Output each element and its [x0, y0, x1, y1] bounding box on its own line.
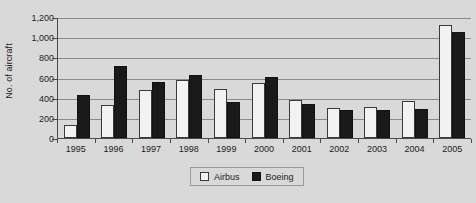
bar-group-2001 [283, 18, 321, 138]
x-axis-tick-label: 2005 [433, 144, 471, 157]
y-axis-tick-label: 600 [16, 74, 54, 84]
bar-airbus-1995 [64, 125, 77, 138]
x-axis-tick-label: 2000 [245, 144, 283, 157]
y-axis-tick-label: 1,000 [16, 33, 54, 43]
bar-airbus-2001 [289, 100, 302, 138]
bar-boeing-2003 [377, 110, 390, 138]
x-axis-tick-mark [471, 139, 472, 143]
x-axis-tick-label: 2002 [320, 144, 358, 157]
bar-group-2005 [433, 18, 471, 138]
bar-group-1998 [171, 18, 209, 138]
bar-boeing-1997 [152, 82, 165, 138]
bar-boeing-2000 [265, 77, 278, 139]
x-axis-tick-mark [208, 139, 209, 143]
bar-group-1995 [58, 18, 96, 138]
bar-group-1997 [133, 18, 171, 138]
legend-entry-airbus: Airbus [200, 172, 240, 182]
bar-airbus-1997 [139, 90, 152, 138]
legend-label-airbus: Airbus [214, 172, 240, 182]
y-axis-tick-labels: 02004006008001,0001,200 [16, 12, 54, 140]
bar-airbus-1996 [101, 105, 114, 138]
legend-swatch-airbus-icon [200, 172, 209, 181]
bar-group-2000 [246, 18, 284, 138]
y-axis-tick-label: 800 [16, 53, 54, 63]
x-axis-tick-mark [396, 139, 397, 143]
bar-airbus-2002 [327, 108, 340, 138]
y-axis-title-label: No. of aircraft [4, 43, 14, 99]
x-axis-tick-mark [245, 139, 246, 143]
bar-airbus-1998 [176, 80, 189, 138]
x-axis-tick-mark [95, 139, 96, 143]
bar-airbus-2003 [364, 107, 377, 138]
legend-swatch-boeing-icon [252, 172, 261, 181]
x-axis-tick-mark [170, 139, 171, 143]
x-axis-tick-label: 1998 [170, 144, 208, 157]
x-axis-tick-mark [132, 139, 133, 143]
y-axis-tick-label: 400 [16, 94, 54, 104]
x-axis-tick-mark [433, 139, 434, 143]
x-axis-tick-label: 2003 [358, 144, 396, 157]
bar-boeing-2004 [415, 109, 428, 138]
x-axis-tick-label: 1995 [57, 144, 95, 157]
bar-group-2003 [358, 18, 396, 138]
bar-boeing-1995 [77, 95, 90, 138]
x-axis-tick-label: 1997 [132, 144, 170, 157]
x-axis-tick-label: 1999 [208, 144, 246, 157]
x-axis-tick-mark [358, 139, 359, 143]
chart-legend: Airbus Boeing [190, 167, 304, 186]
y-axis-tick-label: 200 [16, 114, 54, 124]
x-axis-tick-mark [283, 139, 284, 143]
bar-airbus-1999 [214, 89, 227, 138]
bar-boeing-1996 [114, 66, 127, 138]
bar-airbus-2005 [439, 25, 452, 138]
bar-group-1999 [208, 18, 246, 138]
x-axis-tick-label: 2004 [396, 144, 434, 157]
legend-label-boeing: Boeing [266, 172, 294, 182]
x-axis-tick-labels: 1995199619971998199920002001200220032004… [57, 144, 471, 157]
bar-boeing-2002 [340, 110, 353, 138]
bar-airbus-2004 [402, 101, 415, 138]
bar-airbus-2000 [252, 83, 265, 138]
bar-boeing-1999 [227, 102, 240, 138]
y-axis-tick-label: 0 [16, 134, 54, 144]
plot-area [57, 18, 471, 139]
bars-layer [58, 18, 471, 138]
y-axis-tick-label: 1,200 [16, 13, 54, 23]
bar-boeing-2005 [452, 32, 465, 138]
x-axis-tick-mark [57, 139, 58, 143]
bar-boeing-2001 [302, 104, 315, 138]
bar-group-1996 [96, 18, 134, 138]
x-axis-tick-label: 2001 [283, 144, 321, 157]
x-axis-tick-mark [320, 139, 321, 143]
x-axis-tick-label: 1996 [95, 144, 133, 157]
bar-group-2002 [321, 18, 359, 138]
legend-entry-boeing: Boeing [252, 172, 294, 182]
bar-boeing-1998 [189, 75, 202, 138]
aircraft-deliveries-bar-chart: No. of aircraft 02004006008001,0001,200 … [0, 0, 476, 203]
bar-group-2004 [396, 18, 434, 138]
